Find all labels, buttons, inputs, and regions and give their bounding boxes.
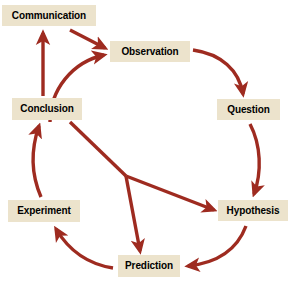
node-conclusion-label: Conclusion bbox=[20, 104, 73, 114]
edge-hypothesis-to-prediction bbox=[188, 226, 246, 266]
node-experiment[interactable]: Experiment bbox=[8, 200, 80, 222]
scientific-method-diagram: Communication Observation Question Hypot… bbox=[0, 0, 291, 288]
node-experiment-label: Experiment bbox=[17, 206, 70, 216]
node-prediction-label: Prediction bbox=[125, 261, 173, 271]
node-question-label: Question bbox=[227, 105, 270, 115]
edge-conclusion-to-prediction bbox=[126, 176, 140, 251]
node-observation[interactable]: Observation bbox=[110, 41, 190, 62]
node-observation-label: Observation bbox=[121, 47, 178, 57]
node-prediction[interactable]: Prediction bbox=[118, 255, 180, 277]
edge-communication-to-observation bbox=[70, 30, 105, 48]
edge-question-to-hypothesis bbox=[250, 124, 259, 194]
node-conclusion[interactable]: Conclusion bbox=[12, 98, 82, 120]
edge-conclusion-to-hypothesis bbox=[126, 176, 214, 210]
node-hypothesis-label: Hypothesis bbox=[227, 206, 280, 216]
edge-conclusion-branch-trunk bbox=[70, 122, 126, 176]
edge-prediction-to-experiment bbox=[56, 229, 113, 268]
edge-experiment-to-conclusion bbox=[33, 126, 41, 197]
node-communication[interactable]: Communication bbox=[2, 5, 96, 26]
node-communication-label: Communication bbox=[12, 11, 86, 21]
edge-observation-to-question bbox=[193, 50, 243, 94]
node-question[interactable]: Question bbox=[217, 99, 280, 120]
node-hypothesis[interactable]: Hypothesis bbox=[218, 200, 288, 221]
